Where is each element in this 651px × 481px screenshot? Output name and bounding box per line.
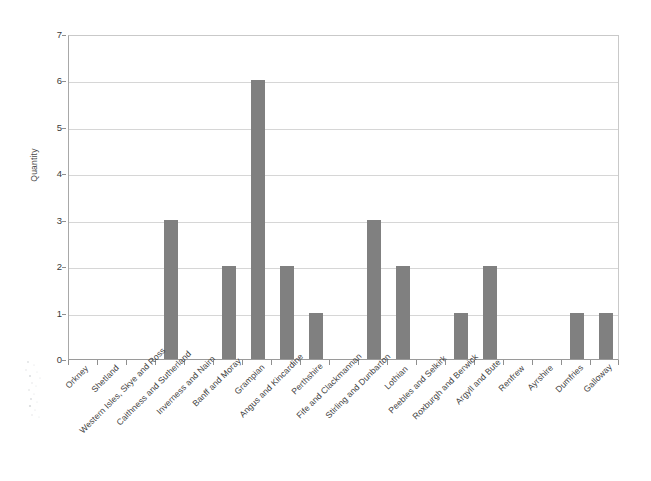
y-axis-tick-label: 2	[40, 262, 62, 272]
gridline	[69, 315, 618, 316]
bar	[222, 266, 236, 359]
x-axis-tick-mark	[329, 360, 330, 365]
bar	[309, 313, 323, 359]
bar	[599, 313, 613, 359]
x-axis-tick-label: Renfrew	[497, 364, 526, 393]
x-axis-tick-mark	[561, 360, 562, 365]
y-axis-tick-mark	[62, 35, 66, 36]
x-axis-tick-mark	[271, 360, 272, 365]
y-axis-tick-mark	[62, 128, 66, 129]
x-axis-tick-labels: OrkneyShetlandWestern Isles, Skye and Ro…	[68, 366, 619, 476]
gridline	[69, 129, 618, 130]
y-axis-tick-label: 5	[40, 123, 62, 133]
y-axis-tick-labels: 01234567	[38, 35, 62, 360]
bar	[570, 313, 584, 359]
bar	[251, 80, 265, 359]
y-axis-tick-label: 7	[40, 30, 62, 40]
x-axis-tick-mark	[126, 360, 127, 365]
bar	[454, 313, 468, 359]
y-axis-tick-mark	[62, 314, 66, 315]
x-axis-tick-label: Lothian	[383, 364, 410, 391]
x-axis-tick-mark	[532, 360, 533, 365]
y-axis-tick-label: 4	[40, 170, 62, 180]
chart-page: Quantity 01234567 OrkneyShetlandWestern …	[0, 0, 651, 481]
x-axis-tick-mark	[97, 360, 98, 365]
x-axis-tick-mark	[618, 360, 619, 365]
gridline	[69, 82, 618, 83]
bar	[164, 220, 178, 359]
x-axis-tick-mark	[416, 360, 417, 365]
y-axis-tick-label: 6	[40, 77, 62, 87]
y-axis-tick-mark	[62, 221, 66, 222]
x-axis-tick-mark	[68, 360, 69, 365]
y-axis-tick-label: 1	[40, 309, 62, 319]
scan-artifact-speckle	[20, 358, 54, 420]
y-axis-tick-mark	[62, 81, 66, 82]
y-axis-tick-label: 3	[40, 216, 62, 226]
gridline	[69, 222, 618, 223]
x-axis-tick-mark	[590, 360, 591, 365]
x-axis-tick-label: Dumfries	[554, 363, 585, 394]
bar	[367, 220, 381, 359]
gridline	[69, 268, 618, 269]
x-axis-tick-label: Orkney	[64, 364, 90, 390]
plot-area	[68, 35, 619, 360]
x-axis-tick-label: Galloway	[582, 363, 614, 395]
bar	[396, 266, 410, 359]
bar	[280, 266, 294, 359]
y-axis-tick-mark	[62, 174, 66, 175]
y-axis-tick-mark	[62, 267, 66, 268]
gridline	[69, 175, 618, 176]
bar	[483, 266, 497, 359]
x-axis-tick-mark	[503, 360, 504, 365]
x-axis-tick-label: Ayrshire	[526, 364, 555, 393]
y-axis-tick-label: 0	[40, 355, 62, 365]
y-axis-tick-mark	[62, 360, 66, 361]
